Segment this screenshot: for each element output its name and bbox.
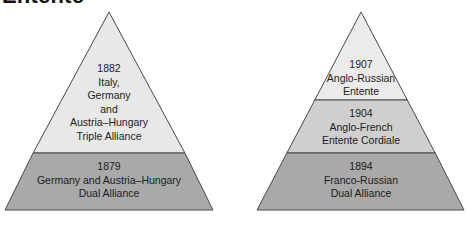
tier-year: 1907 <box>327 58 395 72</box>
tier-text: Anglo-French <box>322 121 400 135</box>
tier-alliance-name: Entente <box>327 85 395 99</box>
tier-year: 1882 <box>70 62 148 76</box>
left-top-tier-label: 1882 Italy, Germany and Austria–Hungary … <box>70 62 148 143</box>
tier-text: and <box>70 103 148 117</box>
tier-year: 1894 <box>324 160 398 174</box>
tier-text: Germany and Austria–Hungary <box>37 174 181 188</box>
right-bottom-tier-label: 1894 Franco-Russian Dual Alliance <box>324 160 398 201</box>
tier-alliance-name: Entente Cordiale <box>322 134 400 148</box>
tier-alliance-name: Triple Alliance <box>70 130 148 144</box>
tier-alliance-name: Dual Alliance <box>37 187 181 201</box>
tier-text: Austria–Hungary <box>70 116 148 130</box>
tier-text: Italy, <box>70 76 148 90</box>
tier-year: 1879 <box>37 160 181 174</box>
tier-text: Germany <box>70 89 148 103</box>
tier-alliance-name: Dual Alliance <box>324 187 398 201</box>
left-bottom-tier-label: 1879 Germany and Austria–Hungary Dual Al… <box>37 160 181 201</box>
tier-text: Franco-Russian <box>324 174 398 188</box>
tier-text: Anglo-Russian <box>327 72 395 86</box>
tier-year: 1904 <box>322 107 400 121</box>
right-top-tier-label: 1907 Anglo-Russian Entente <box>327 58 395 99</box>
right-middle-tier-label: 1904 Anglo-French Entente Cordiale <box>322 107 400 148</box>
